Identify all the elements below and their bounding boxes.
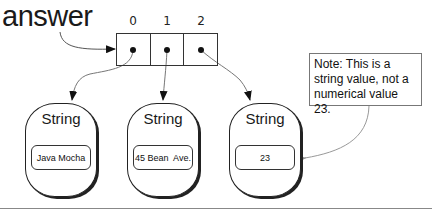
array-box [116,33,218,66]
reference-dot-icon [198,47,204,53]
object-type-label: String [128,110,198,127]
variable-reference-arrow [60,32,115,49]
object-value: Java Mocha [31,145,91,170]
array-cell-2 [184,34,217,65]
array-index-0: 0 [116,14,150,28]
array-cell-1 [151,34,185,65]
array-cell-0 [117,34,151,65]
array-index-1: 1 [150,14,184,28]
variable-name: answer [2,0,93,32]
reference-dot-icon [130,47,136,53]
object-type-label: String [26,110,96,127]
string-object-2: String 23 [229,103,301,197]
object-value: 45 Bean Ave. [133,145,193,170]
object-type-label: String [230,110,300,127]
string-object-1: String 45 Bean Ave. [127,103,199,197]
divider-line [0,208,432,209]
string-object-0: String Java Mocha [25,103,97,197]
array-index-2: 2 [184,14,218,28]
note-box: Note: This is a string value, not a nume… [309,53,422,106]
object-value: 23 [235,145,295,170]
reference-dot-icon [164,47,170,53]
